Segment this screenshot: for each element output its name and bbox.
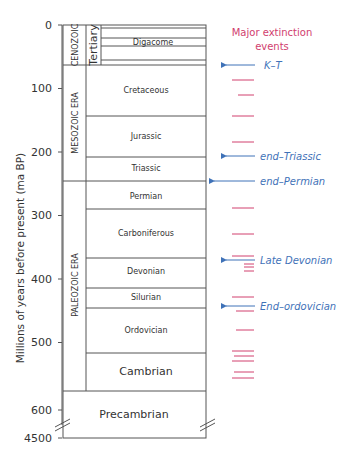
tick-200: 200 — [31, 146, 52, 159]
event-arrows — [214, 65, 255, 306]
era-cenozoic: CENOZOIC — [71, 23, 80, 66]
tick-300: 300 — [31, 209, 52, 222]
period-tertiary: Tertiary — [87, 24, 100, 67]
period-ordovician: Ordovician — [125, 326, 168, 335]
era-paleozoic: PALEOZOIC ERA — [71, 253, 80, 317]
legend-title-line2: events — [255, 41, 289, 52]
period-jurassic: Jurassic — [130, 132, 162, 141]
tick-600: 600 — [31, 404, 52, 417]
tick-500: 500 — [31, 336, 52, 349]
period-permian: Permian — [130, 192, 163, 201]
period-precambrian: Precambrian — [99, 408, 168, 421]
tick-0: 0 — [45, 19, 52, 32]
tertiary-digacome: Digacome — [133, 38, 173, 47]
y-axis — [58, 25, 62, 438]
tick-400: 400 — [31, 273, 52, 286]
period-carboniferous: Carboniferous — [118, 229, 174, 238]
tick-4500: 4500 — [24, 432, 52, 445]
period-silurian: Silurian — [131, 293, 161, 302]
period-cambrian: Cambrian — [119, 365, 172, 378]
event-end-triassic: end–Triassic — [260, 151, 321, 162]
geologic-timescale-diagram: Millions of years before present (ma BP)… — [0, 0, 340, 464]
era-mesozoic: MESOZOIC ERA — [71, 92, 80, 154]
event-kt: K–T — [264, 60, 283, 71]
tick-100: 100 — [31, 82, 52, 95]
period-devonian: Devonian — [127, 267, 165, 276]
y-axis-label: Millions of years before present (ma BP) — [14, 153, 26, 363]
event-end-ordovician: End–ordovician — [260, 301, 336, 312]
period-cretaceous: Cretaceous — [123, 86, 168, 95]
period-triassic: Triassic — [130, 164, 160, 173]
event-late-devonian: Late Devonian — [260, 255, 332, 266]
legend-title-line1: Major extinction — [232, 27, 313, 38]
event-end-permian: end–Permian — [260, 176, 325, 187]
extinction-ticks — [232, 80, 254, 378]
